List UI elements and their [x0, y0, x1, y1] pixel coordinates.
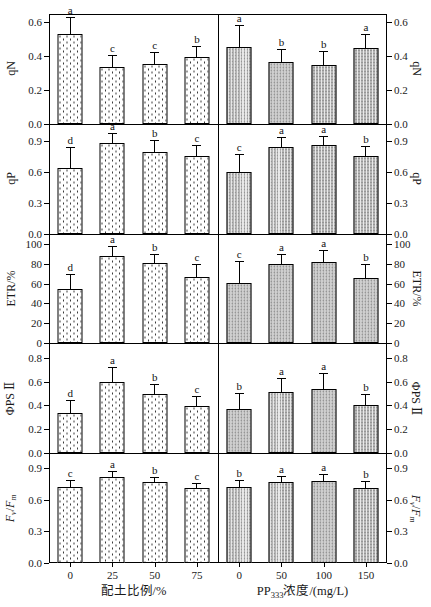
- bar-panel-right: abba: [218, 14, 387, 124]
- y-axis-title-text: qN: [408, 62, 423, 77]
- y-tick: [387, 172, 392, 173]
- y-tick: [387, 405, 392, 406]
- y-axis-title-text: ETR/%: [409, 270, 424, 306]
- significance-letter: b: [152, 242, 158, 253]
- error-bar: [281, 255, 282, 264]
- bar-slot: b: [345, 234, 387, 344]
- y-tick: [387, 468, 392, 469]
- error-bar-cap: [235, 480, 244, 481]
- bar-slot: a: [303, 234, 345, 344]
- significance-letter: b: [363, 134, 369, 145]
- bar: [142, 64, 167, 124]
- x-tick-label: 0: [219, 569, 259, 582]
- figure: 0.00.00.20.20.40.40.60.6qNqNaccbabba0.00…: [0, 0, 431, 607]
- bar: [58, 34, 83, 124]
- bar-slot: a: [303, 343, 345, 453]
- label-part: 配土比例/%: [101, 584, 167, 598]
- x-tick-label: 0: [50, 569, 90, 582]
- error-bar: [70, 401, 71, 413]
- bar-slot: b: [260, 14, 302, 124]
- significance-letter: a: [237, 13, 242, 24]
- bar-panel-left: accb: [49, 14, 218, 124]
- error-bar-cap: [192, 396, 201, 397]
- significance-letter: c: [152, 40, 157, 51]
- bar-slot: a: [49, 14, 91, 124]
- bar: [100, 143, 125, 233]
- bar-slot: c: [218, 234, 260, 344]
- significance-letter: c: [194, 252, 199, 263]
- bar-slot: b: [134, 124, 176, 234]
- significance-letter: b: [279, 37, 285, 48]
- error-bar: [323, 137, 324, 145]
- error-bar: [154, 255, 155, 263]
- label-part: v: [9, 511, 18, 515]
- bar-slot: b: [176, 14, 218, 124]
- bar-panel-right: caab: [218, 124, 387, 234]
- bar: [100, 67, 125, 124]
- bar: [311, 389, 336, 453]
- y-tick: [387, 531, 392, 532]
- bar-slot: a: [303, 124, 345, 234]
- significance-letter: a: [110, 459, 115, 470]
- error-bar-cap: [108, 367, 117, 368]
- bar-slot: b: [218, 453, 260, 563]
- bar: [311, 65, 336, 124]
- x-tick: [112, 563, 113, 567]
- error-bar-cap: [66, 480, 75, 481]
- error-bar: [323, 52, 324, 65]
- error-bar: [239, 481, 240, 487]
- label-part: m: [409, 516, 418, 522]
- error-bar: [365, 147, 366, 155]
- error-bar-cap: [319, 51, 328, 52]
- bar-slot: a: [345, 14, 387, 124]
- error-bar: [112, 134, 113, 143]
- y-tick: [387, 22, 392, 23]
- error-bar-cap: [66, 274, 75, 275]
- error-bar: [281, 379, 282, 393]
- significance-letter: b: [236, 381, 242, 392]
- error-bar: [365, 395, 366, 405]
- bar: [269, 392, 294, 453]
- significance-letter: b: [152, 372, 158, 383]
- bar-slot: b: [134, 453, 176, 563]
- significance-letter: a: [363, 22, 368, 33]
- label-part: qP: [410, 172, 424, 185]
- bar-panel-right: baab: [218, 453, 387, 563]
- y-tick: [44, 563, 49, 564]
- error-bar: [112, 247, 113, 256]
- error-bar-cap: [277, 378, 286, 379]
- bar-slot: c: [176, 124, 218, 234]
- x-axis-title: PP333浓度/(mg/L): [218, 584, 387, 603]
- bar-slot: c: [176, 453, 218, 563]
- y-axis-title-text: ΦPS Ⅱ: [4, 382, 19, 415]
- label-part: PP: [257, 584, 271, 598]
- error-bar-cap: [361, 394, 370, 395]
- y-axis-title: Fv/Fm: [405, 453, 427, 563]
- error-bar-cap: [192, 483, 201, 484]
- y-axis-title: Fv/Fm: [0, 453, 22, 563]
- error-bar-cap: [319, 474, 328, 475]
- bar: [184, 406, 209, 453]
- error-bar-cap: [235, 393, 244, 394]
- significance-letter: b: [363, 252, 369, 263]
- bar: [58, 487, 83, 563]
- bar-slot: a: [91, 343, 133, 453]
- error-bar: [154, 385, 155, 393]
- significance-letter: a: [279, 242, 284, 253]
- y-tick: [387, 90, 392, 91]
- y-tick: [387, 382, 392, 383]
- error-bar-cap: [108, 133, 117, 134]
- bar-slot: a: [91, 124, 133, 234]
- error-bar: [154, 141, 155, 151]
- significance-letter: c: [194, 133, 199, 144]
- error-bar: [70, 18, 71, 33]
- error-bar-cap: [319, 373, 328, 374]
- error-bar-cap: [277, 254, 286, 255]
- bar-slot: c: [176, 343, 218, 453]
- y-axis-title-text: ΦPS Ⅱ: [409, 382, 424, 415]
- error-bar: [239, 155, 240, 172]
- bar: [269, 482, 294, 563]
- bar-slot: b: [303, 14, 345, 124]
- y-tick: [387, 358, 392, 359]
- error-bar: [323, 475, 324, 480]
